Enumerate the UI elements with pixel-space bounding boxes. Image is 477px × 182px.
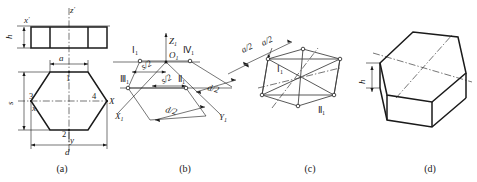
drawing-canvas: z′ x′ h a s d x y X 1 2 3 4 — [0, 0, 477, 182]
h-arrow-bottom — [22, 44, 25, 48]
view-d-group: h — [357, 32, 472, 127]
point-node-II1 — [184, 86, 188, 90]
label-d-dimension: d — [65, 147, 70, 157]
prism-h-arrow-bottom — [370, 88, 373, 92]
label-X-axis: X — [108, 96, 115, 106]
label-point-I1: Ⅰ1 — [132, 45, 138, 56]
label-point-III1: Ⅲ1 — [120, 74, 129, 85]
iso-node-bottom — [296, 104, 300, 108]
label-vertex-2: 2 — [62, 129, 66, 139]
vertex-dot-4 — [106, 100, 108, 102]
transfer-leader-line — [228, 64, 248, 74]
point-node-IV1 — [188, 59, 192, 63]
s-half-left-arrow-a — [132, 70, 136, 73]
label-d-half-left: d/2 — [164, 104, 178, 117]
prism-bottom-outline — [380, 88, 466, 127]
label-vertex-3: 3 — [29, 91, 33, 101]
iso-node-right-upper — [338, 57, 342, 61]
iso-construction-diag-b — [262, 59, 340, 95]
prism-top-face — [380, 32, 466, 102]
s-half-right-arrow-a — [152, 84, 156, 87]
caption-d: (d) — [424, 163, 436, 175]
label-O1-origin: O1 — [169, 50, 179, 61]
label-a-half-second: a/2 — [259, 34, 274, 48]
captions-group: (a) (b) (c) (d) — [56, 163, 435, 175]
d-arrow-right — [103, 143, 107, 146]
label-a-half-first: a/2 — [239, 41, 254, 55]
label-h-dimension: h — [4, 34, 14, 39]
view-a-group: z′ x′ h a s d x y X 1 2 3 4 — [4, 5, 115, 157]
a-arrow-right — [84, 62, 88, 65]
view-b-group: Ⅰ1 Ⅳ1 Ⅲ1 Ⅱ1 Z1 O1 X1 Y1 s/2 s/2 d/2 d/2 — [113, 33, 236, 123]
caption-a: (a) — [56, 163, 67, 175]
label-y-axis: y — [69, 135, 74, 145]
view-c-centerline-b — [272, 48, 318, 108]
label-point-IV1: Ⅳ1 — [183, 45, 194, 56]
iso-node-II1 — [332, 93, 336, 97]
engineering-drawing-figure: z′ x′ h a s d x y X 1 2 3 4 — [0, 0, 477, 182]
label-X1-axis: X1 — [114, 111, 124, 122]
label-point-II1: Ⅱ1 — [178, 74, 185, 85]
iso-node-left-lower — [260, 93, 264, 97]
iso-hexagon-outline — [262, 49, 340, 106]
d-arrow-left — [31, 143, 35, 146]
label-Y1-axis: Y1 — [219, 112, 227, 123]
label-vertex-1: 1 — [66, 73, 70, 83]
vertex-dot-2 — [68, 129, 70, 131]
grid-edge-bottom-right — [186, 88, 206, 116]
label-Z1-axis: Z1 — [169, 36, 177, 47]
label-x-prime: x′ — [23, 15, 30, 25]
z1-arrowhead — [165, 33, 168, 37]
label-vertex-4: 4 — [92, 91, 97, 101]
label-s-dimension: s — [5, 101, 15, 105]
origin-node-O1 — [165, 61, 168, 64]
s-arrow-bottom — [22, 126, 25, 130]
prism-h-arrow-top — [370, 66, 373, 70]
prism-centerline-a — [373, 53, 472, 82]
iso-node-top — [301, 47, 305, 51]
label-x-axis: x — [31, 103, 36, 113]
label-z-prime: z′ — [69, 5, 76, 15]
label-s-half-right: s/2 — [159, 72, 173, 86]
label-prism-h: h — [357, 79, 367, 84]
caption-c: (c) — [304, 163, 315, 175]
prism-centerline-b — [396, 35, 452, 98]
a-arrow-left — [50, 62, 54, 65]
point-node-III1 — [126, 86, 130, 90]
iso-node-I1 — [266, 57, 270, 61]
s-arrow-top — [22, 72, 25, 76]
view-c-group: a/2 a/2 Ⅰ1 Ⅱ1 — [228, 34, 342, 116]
label-iso-point-II1: Ⅱ1 — [318, 105, 325, 116]
h-arrow-top — [22, 27, 25, 31]
grid-edge-bottom-left — [128, 88, 150, 120]
caption-b: (b) — [179, 163, 191, 175]
grid-edge-left — [128, 61, 140, 88]
label-a-dimension: a — [59, 53, 64, 63]
label-d-half-right: d/2 — [206, 82, 220, 95]
